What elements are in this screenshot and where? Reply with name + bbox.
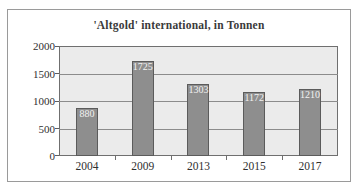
x-axis-tick-label: 2015 [243,160,266,172]
x-axis-tick-label: 2017 [299,160,322,172]
bar-value-label: 1172 [244,92,264,103]
y-axis-ticks [8,46,60,156]
bar[interactable] [132,61,154,156]
plot-area: 880 1725 1303 1172 1210 [59,46,338,156]
bar-column: 880 [59,46,115,156]
bar-value-label: 1210 [300,89,320,100]
x-axis-tick-label: 2009 [131,160,154,172]
bar-column: 1725 [115,46,171,156]
chart-title: 'Altgold' international, in Tonnen [8,19,350,31]
chart-frame: 'Altgold' international, in Tonnen 2000 … [7,9,351,182]
x-axis-tick-label: 2004 [75,160,98,172]
x-axis-tick-label: 2013 [187,160,210,172]
x-axis: 2004 2009 2013 2015 2017 [59,160,338,180]
bar-value-label: 880 [79,108,94,119]
bar-value-label: 1303 [188,84,208,95]
bar-column: 1303 [171,46,227,156]
bar-value-label: 1725 [133,61,153,72]
bar-column: 1210 [282,46,338,156]
bar-column: 1172 [226,46,282,156]
